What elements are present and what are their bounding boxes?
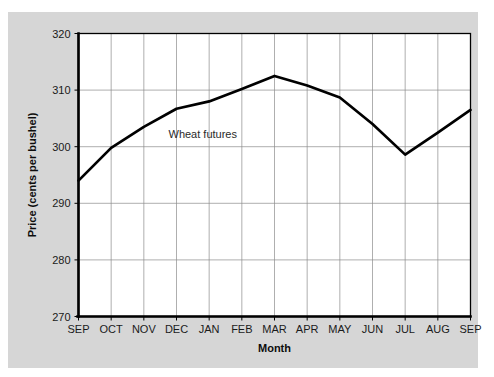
x-tick-label-feb-5: FEB [231,323,252,335]
x-axis-tick-labels: SEPOCTNOVDECJANFEBMARAPRMAYJUNJULAUGSEP [67,323,481,335]
x-tick-label-mar-6: MAR [262,323,287,335]
x-tick-label-oct-1: OCT [100,323,124,335]
x-tick-label-sep-12: SEP [459,323,481,335]
x-axis-title: Month [258,342,291,354]
y-tick-label-280: 280 [52,254,70,266]
x-tick-label-sep-0: SEP [67,323,89,335]
annotation-wheat-futures: Wheat futures [169,128,238,140]
x-tick-label-jan-4: JAN [199,323,220,335]
y-tick-label-320: 320 [52,28,70,40]
x-tick-label-aug-11: AUG [426,323,450,335]
x-tick-label-jun-9: JUN [362,323,383,335]
y-tick-label-310: 310 [52,84,70,96]
x-tick-label-nov-2: NOV [132,323,157,335]
wheat-futures-line-chart: 270280290300310320 SEPOCTNOVDECJANFEBMAR… [0,0,494,377]
series-annotations: Wheat futures [169,128,238,140]
y-tick-label-270: 270 [52,311,70,323]
x-tick-label-dec-3: DEC [165,323,188,335]
x-tick-label-may-8: MAY [328,323,352,335]
chart-container: 270280290300310320 SEPOCTNOVDECJANFEBMAR… [0,0,494,377]
y-tick-label-300: 300 [52,141,70,153]
y-axis-tick-labels: 270280290300310320 [52,28,70,323]
x-tick-label-jul-10: JUL [395,323,415,335]
x-tick-label-apr-7: APR [296,323,319,335]
y-tick-label-290: 290 [52,197,70,209]
y-axis-title: Price (cents per bushel) [26,112,38,237]
